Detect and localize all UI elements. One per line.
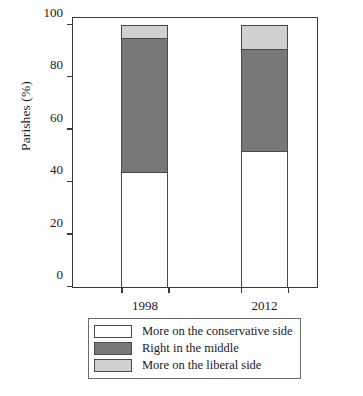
bar-segment-2012-conservative [241, 151, 288, 287]
bar-1998 [121, 25, 168, 287]
stacked-bar-chart: Parishes (%) 0 20 40 60 80 100 19982012 … [0, 0, 363, 396]
y-tick-label-100: 100 [44, 6, 64, 19]
legend-swatch-liberal [94, 359, 132, 372]
bar-segment-2012-liberal [241, 25, 288, 49]
y-tick-mark-0 [67, 286, 73, 287]
x-tick-mark [288, 287, 289, 293]
x-tick-label-1998: 1998 [132, 298, 158, 314]
legend-label-middle: Right in the middle [142, 342, 239, 355]
legend-item: More on the liberal side [94, 357, 295, 374]
x-tick-mark [168, 287, 169, 293]
bar-segment-1998-middle [121, 38, 168, 172]
legend: More on the conservative side Right in t… [88, 318, 301, 379]
legend-swatch-conservative [94, 325, 132, 338]
bar-segment-1998-conservative [121, 172, 168, 287]
legend-label-liberal: More on the liberal side [142, 359, 261, 372]
y-tick-mark-60 [67, 128, 73, 129]
plot-area: 0 20 40 60 80 100 19982012 [72, 17, 318, 288]
y-axis-title: Parishes (%) [18, 46, 34, 186]
legend-item: Right in the middle [94, 340, 295, 357]
legend-item: More on the conservative side [94, 323, 295, 340]
y-tick-label-40: 40 [50, 163, 63, 176]
y-tick-mark-80 [67, 76, 73, 77]
plot-inner: 0 20 40 60 80 100 19982012 [73, 25, 317, 287]
y-tick-mark-20 [67, 233, 73, 234]
legend-label-conservative: More on the conservative side [142, 325, 293, 338]
x-tick-label-2012: 2012 [252, 298, 278, 314]
y-tick-label-80: 80 [50, 58, 63, 71]
y-tick-label-60: 60 [50, 110, 63, 123]
bar-segment-2012-middle [241, 49, 288, 151]
y-tick-mark-100 [67, 24, 73, 25]
bar-segment-1998-liberal [121, 25, 168, 38]
y-tick-label-0: 0 [57, 268, 64, 281]
bar-2012 [241, 25, 288, 287]
legend-swatch-middle [94, 342, 132, 355]
y-tick-label-20: 20 [50, 215, 63, 228]
x-tick-mark [121, 287, 122, 293]
x-tick-mark [241, 287, 242, 293]
y-tick-mark-40 [67, 181, 73, 182]
